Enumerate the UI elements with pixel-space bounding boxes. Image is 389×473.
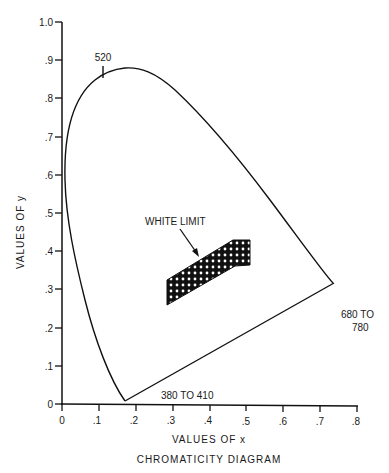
x-tick-label: .1: [93, 415, 102, 426]
y-tick-label: .1: [45, 361, 54, 372]
x-tick-label: .3: [167, 415, 176, 426]
x-tick-label: 0: [59, 415, 65, 426]
x-tick-label: .2: [130, 415, 139, 426]
annotation-680-to: 680 TO: [341, 309, 374, 320]
y-tick-label: .5: [45, 208, 54, 219]
white-limit-region: [167, 240, 250, 305]
y-tick-label: .4: [45, 246, 54, 257]
y-tick-label: .3: [45, 284, 54, 295]
annotation-780: 780: [352, 322, 369, 333]
annotation-380-to-410: 380 TO 410: [161, 390, 214, 401]
x-axis-label: VALUES OF x: [172, 434, 246, 445]
y-tick-label: .6: [45, 170, 54, 181]
purple-line: [125, 283, 334, 401]
y-tick-label: .2: [45, 323, 54, 334]
annotation-white-limit: WHITE LIMIT: [145, 216, 206, 227]
y-tick-label: .8: [45, 93, 54, 104]
x-tick-label: .5: [242, 416, 251, 427]
y-axis: 0 .1 .2 .3 .4 .5 .6 .7 .8 .9 1.0: [39, 17, 62, 410]
x-tick-label: .7: [316, 416, 325, 427]
y-tick-label: 0: [47, 399, 53, 410]
y-axis-label: VALUES OF y: [15, 195, 26, 269]
white-limit-arrow: [180, 229, 199, 257]
x-tick-label: .4: [204, 415, 213, 426]
x-axis: 0 .1 .2 .3 .4 .5 .6 .7 .8: [59, 404, 360, 427]
annotation-520: 520: [95, 52, 112, 63]
x-tick-label: .8: [352, 416, 361, 427]
y-tick-label: .9: [45, 55, 54, 66]
spectral-locus-curve: [65, 68, 333, 401]
y-tick-label: 1.0: [39, 17, 53, 28]
y-tick-label: .7: [45, 132, 54, 143]
x-tick-label: .6: [279, 416, 288, 427]
chart-title: CHROMATICITY DIAGRAM: [137, 454, 282, 465]
chromaticity-chart: 0 .1 .2 .3 .4 .5 .6 .7 .8 .9 1.0 0: [0, 0, 389, 473]
